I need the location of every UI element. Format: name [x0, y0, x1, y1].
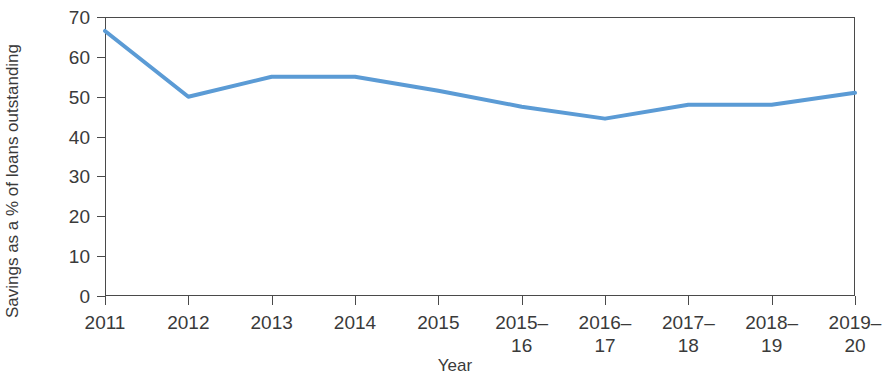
y-axis-tick-label: 50: [34, 88, 90, 107]
y-axis-tick-mark: [97, 17, 106, 18]
y-axis-tick-label: 10: [34, 247, 90, 266]
x-axis-tick-mark: [772, 296, 773, 305]
y-axis-tick-mark: [97, 57, 106, 58]
y-axis-tick-mark: [97, 256, 106, 257]
x-axis-tick-mark: [688, 296, 689, 305]
x-axis-tick-mark: [272, 296, 273, 305]
y-axis-tick-mark: [97, 176, 106, 177]
y-axis-tick-label: 40: [34, 128, 90, 147]
y-axis-tick-mark: [97, 97, 106, 98]
y-axis-tick-label: 0: [34, 287, 90, 306]
y-axis-tick-label: 20: [34, 207, 90, 226]
y-axis-tick-mark: [97, 216, 106, 217]
x-axis-tick-mark: [105, 296, 106, 305]
x-axis-title: Year: [0, 356, 886, 376]
x-axis-tick-mark: [605, 296, 606, 305]
series-line-savings: [105, 31, 855, 119]
y-axis-tick-label: 60: [34, 48, 90, 67]
y-axis-tick-label: 70: [34, 8, 90, 27]
x-axis-tick-label: 2019– 20: [790, 311, 886, 357]
y-axis-title: Savings as a % of loans outstanding: [0, 26, 26, 336]
x-axis-tick-mark: [188, 296, 189, 305]
x-axis-tick-mark: [355, 296, 356, 305]
y-axis-tick-label: 30: [34, 167, 90, 186]
y-axis-tick-mark: [97, 137, 106, 138]
x-axis-tick-mark: [855, 296, 856, 305]
data-line-layer: [105, 17, 855, 296]
x-axis-tick-mark: [522, 296, 523, 305]
x-axis-tick-mark: [438, 296, 439, 305]
